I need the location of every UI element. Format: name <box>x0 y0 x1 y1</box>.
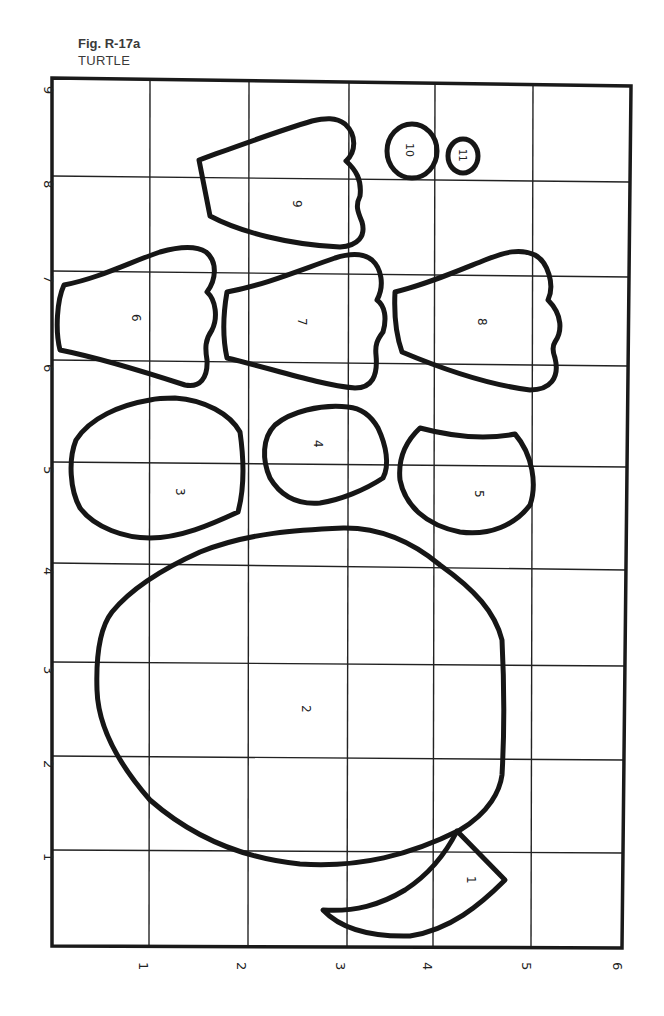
grid-line-h7 <box>52 271 629 277</box>
axis-label-7: 7 <box>41 275 56 283</box>
axis-label-6: 6 <box>41 364 56 372</box>
grid-line-h8 <box>52 176 629 182</box>
grid-line-v2 <box>248 81 249 947</box>
pattern-piece-8: 8 <box>395 251 560 390</box>
grid-line-h3 <box>52 662 625 666</box>
grid-line-v3 <box>347 82 349 947</box>
axis-label-1: 1 <box>41 853 56 861</box>
piece-label-8: 8 <box>475 318 489 326</box>
grid-line-h6 <box>52 360 628 366</box>
piece-label-3: 3 <box>173 488 187 496</box>
pattern-diagram: 9 8 7 6 5 4 3 2 1 1 2 3 4 5 6 9 6 7 8 10 <box>0 0 664 1016</box>
pattern-piece-5: 5 <box>400 428 534 533</box>
grid-line-h5 <box>52 462 627 467</box>
axis-label-b1: 1 <box>136 962 151 970</box>
grid-line-v4 <box>433 83 435 947</box>
grid-line-h2 <box>52 756 624 760</box>
axis-label-3: 3 <box>41 666 56 674</box>
pattern-piece-6: 6 <box>57 247 215 385</box>
axis-label-9: 9 <box>41 86 56 94</box>
pattern-piece-10: 10 <box>387 124 437 178</box>
bottom-axis-labels: 1 2 3 4 5 6 <box>136 962 625 970</box>
pattern-grid <box>52 80 629 947</box>
axis-label-b2: 2 <box>234 962 249 970</box>
pattern-piece-2: 2 <box>97 528 504 865</box>
grid-frame <box>52 78 631 948</box>
axis-label-5: 5 <box>41 466 56 474</box>
pattern-piece-4: 4 <box>265 406 387 503</box>
piece-label-6: 6 <box>129 314 143 322</box>
pattern-piece-3: 3 <box>71 398 243 538</box>
piece-label-1: 1 <box>464 876 478 884</box>
piece-label-7: 7 <box>295 318 309 326</box>
axis-label-8: 8 <box>41 180 56 188</box>
axis-label-b3: 3 <box>333 962 348 970</box>
axis-label-b6: 6 <box>610 962 625 970</box>
piece-label-2: 2 <box>299 705 313 713</box>
grid-line-v5 <box>531 85 533 947</box>
piece-label-9: 9 <box>290 200 304 208</box>
piece-label-11: 11 <box>457 149 468 162</box>
piece-label-4: 4 <box>311 440 325 448</box>
axis-label-4: 4 <box>41 567 56 575</box>
piece-label-10: 10 <box>403 143 416 157</box>
axis-label-b4: 4 <box>420 962 435 970</box>
grid-line-h4 <box>52 563 626 570</box>
pattern-piece-9: 9 <box>199 119 363 247</box>
grid-line-h1 <box>52 850 623 853</box>
piece-label-5: 5 <box>472 490 486 498</box>
axis-label-b5: 5 <box>519 962 534 970</box>
pattern-piece-11: 11 <box>448 139 478 173</box>
axis-label-2: 2 <box>41 760 56 768</box>
grid-line-v1 <box>149 80 150 947</box>
